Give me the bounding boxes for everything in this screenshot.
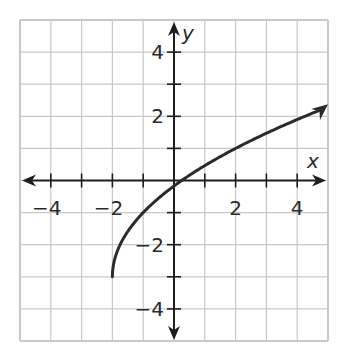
y-axis-label: y xyxy=(181,21,195,45)
x-tick-label: 2 xyxy=(229,196,242,220)
function-graph: −4−22442−2−4 x y xyxy=(0,0,344,357)
x-tick-label: −2 xyxy=(94,196,123,220)
x-tick-label: −4 xyxy=(32,196,61,220)
x-axis-label: x xyxy=(306,149,319,173)
y-tick-label: −2 xyxy=(135,233,164,257)
x-tick-label: 4 xyxy=(291,196,304,220)
y-tick-label: 2 xyxy=(151,104,164,128)
axes xyxy=(22,22,326,340)
y-tick-label: −4 xyxy=(135,297,164,321)
y-tick-label: 4 xyxy=(151,40,164,64)
